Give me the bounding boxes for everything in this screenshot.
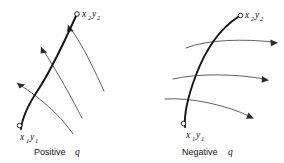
start-label-y-subscript: 1 <box>35 137 38 144</box>
panel-positive: x 1 y 1 x 2 y 2 Positive q <box>17 9 104 157</box>
field-line-2 <box>173 75 269 83</box>
end-point-label-negative: x 2 y 2 <box>244 10 264 22</box>
start-point-label-positive: x 1 y 1 <box>19 132 38 144</box>
field-line-3 <box>165 99 254 119</box>
figure-container: x 1 y 1 x 2 y 2 Positive q <box>0 0 284 163</box>
field-line-arrowhead-icon <box>270 40 278 47</box>
field-line-1 <box>67 25 104 91</box>
caption-symbol: q <box>228 147 233 157</box>
trajectory-path-positive <box>21 16 76 129</box>
start-label-y-subscript: 1 <box>201 135 204 142</box>
field-line-path <box>41 47 82 118</box>
start-point-marker <box>181 121 186 126</box>
figure-svg: x 1 y 1 x 2 y 2 Positive q <box>0 0 284 163</box>
field-line-1 <box>186 40 278 48</box>
field-line-path <box>186 40 273 48</box>
end-label-y-subscript: 2 <box>260 15 264 22</box>
start-label-x-subscript: 1 <box>192 135 195 142</box>
panel-negative: x 1 y 1 x 2 y 2 Negative q <box>165 10 278 157</box>
start-label-x-subscript: 1 <box>26 137 29 144</box>
field-lines-negative <box>165 40 278 119</box>
field-line-path <box>17 83 73 134</box>
start-label-x: x <box>185 130 191 140</box>
end-point-marker <box>75 12 80 17</box>
field-line-arrowhead-icon <box>41 47 48 54</box>
start-point-marker <box>17 123 22 128</box>
field-lines-positive <box>17 25 104 134</box>
field-line-arrowhead-icon <box>246 113 254 119</box>
start-label-x: x <box>19 132 25 142</box>
caption-negative: Negative q <box>182 147 233 157</box>
end-label-x: x <box>244 10 250 20</box>
caption-word: Negative <box>182 147 218 157</box>
trajectory-path-negative <box>185 17 238 127</box>
caption-word: Positive <box>34 147 66 157</box>
caption-positive: Positive q <box>34 147 80 157</box>
field-line-path <box>68 25 104 91</box>
caption-symbol: q <box>75 147 80 157</box>
field-line-path <box>165 99 249 116</box>
field-line-3 <box>17 83 73 134</box>
end-label-y-subscript: 2 <box>97 14 101 21</box>
field-line-path <box>173 75 264 79</box>
end-label-x: x <box>81 9 87 19</box>
field-line-arrowhead-icon <box>262 76 269 83</box>
end-point-marker <box>238 13 243 18</box>
field-line-2 <box>41 47 82 118</box>
end-point-label-positive: x 2 y 2 <box>81 9 101 21</box>
start-point-label-negative: x 1 y 1 <box>185 130 204 142</box>
